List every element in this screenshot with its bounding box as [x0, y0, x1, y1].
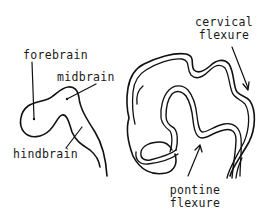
pontine-flexure-arrow-line: [188, 147, 200, 176]
forebrain-pointer-line: [32, 62, 34, 118]
brain-development-diagram: forebrain midbrain hindbrain cervical fl…: [0, 0, 269, 213]
label-pontine-flexure-line2: flexure: [160, 197, 230, 210]
flexed-brain-outline: [127, 54, 254, 178]
label-cervical-flexure-line2: flexure: [184, 29, 264, 42]
label-forebrain: forebrain: [23, 49, 88, 62]
label-cervical-flexure: cervical flexure: [184, 16, 264, 42]
label-midbrain: midbrain: [57, 71, 115, 84]
hindbrain-pointer-line: [66, 127, 82, 148]
label-hindbrain: hindbrain: [13, 148, 78, 161]
label-pontine-flexure: pontine flexure: [160, 184, 230, 210]
